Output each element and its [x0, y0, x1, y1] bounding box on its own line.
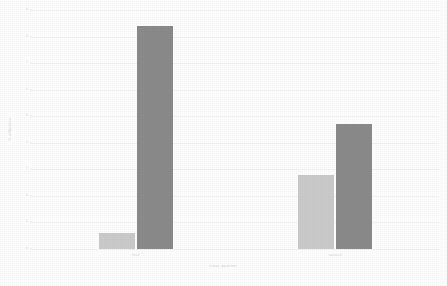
y-tick-label: 9 [26, 8, 28, 11]
bar-second-dark [336, 124, 372, 249]
gridline [32, 90, 439, 91]
y-tick-label: 8 [26, 35, 28, 38]
y-axis: 0123456789 [0, 10, 32, 249]
plot-area [32, 10, 439, 249]
gridline [32, 196, 439, 197]
chart-figure: % difference 0123456789 firstsecond clas… [0, 0, 447, 286]
gridline [32, 10, 439, 11]
gridlines [32, 10, 439, 249]
gridline [32, 143, 439, 144]
y-tick-label: 2 [26, 194, 28, 197]
bar-second-light [298, 175, 334, 249]
y-tick-label: 3 [26, 168, 28, 171]
x-tick-label: first [132, 254, 139, 257]
y-tick-label: 0 [26, 247, 28, 250]
gridline [32, 222, 439, 223]
y-tick-label: 1 [26, 221, 28, 224]
gridline [32, 63, 439, 64]
bar-first-light [99, 233, 135, 249]
y-tick-label: 7 [26, 62, 28, 65]
gridline [32, 37, 439, 38]
bar-first-dark [137, 26, 173, 249]
x-tick-label: second [329, 254, 342, 257]
x-axis-label: class quarter [209, 264, 237, 268]
y-tick-label: 6 [26, 88, 28, 91]
gridline [32, 169, 439, 170]
y-tick-label: 4 [26, 141, 28, 144]
y-tick-label: 5 [26, 115, 28, 118]
gridline [32, 116, 439, 117]
